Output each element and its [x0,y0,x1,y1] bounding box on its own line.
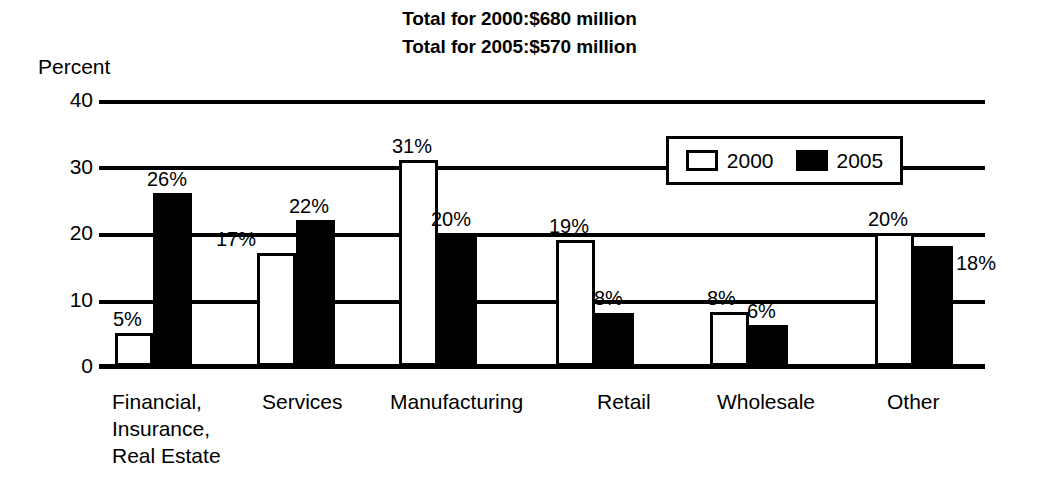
x-category-label-manufacturing: Manufacturing [390,388,523,415]
legend-item-2005[interactable]: 2005 [796,150,884,171]
y-tick-label-20: 20 [47,222,93,243]
bar-value-2000-retail: 19% [549,215,589,237]
legend-swatch-2000-icon [686,150,718,171]
bar-value-2000-services: 17% [216,228,256,250]
bar-value-2005-financial: 26% [147,168,187,190]
y-tick-label-30: 30 [47,156,93,177]
bar-2005-manufacturing[interactable] [438,233,477,366]
bar-2000-financial[interactable] [115,333,153,366]
bar-2000-retail[interactable] [556,240,595,366]
chart-legend[interactable]: 2000 2005 [666,136,903,185]
legend-swatch-2005-icon [796,150,828,171]
x-category-label-financial-line3: Real Estate [112,442,221,469]
legend-item-2000[interactable]: 2000 [686,150,774,171]
x-category-label-financial: Financial, Insurance, Real Estate [112,388,221,469]
bar-2000-manufacturing[interactable] [399,160,438,366]
bar-value-2000-financial: 5% [113,308,142,330]
gridline-40 [99,100,985,104]
y-tick-label-10: 10 [47,289,93,310]
bar-value-2005-retail: 8% [594,287,623,309]
chart-title-line-1: Total for 2000:$680 million [0,6,1039,32]
bar-2005-services[interactable] [296,220,335,366]
chart-title-block: Total for 2000:$680 million Total for 20… [0,6,1039,60]
legend-label-2005: 2005 [837,150,884,171]
x-category-label-services: Services [262,388,343,415]
bar-value-2005-manufacturing: 20% [431,208,471,230]
x-category-label-retail: Retail [597,388,651,415]
x-category-label-other: Other [887,388,940,415]
chart-screenshot: Total for 2000:$680 million Total for 20… [0,0,1039,488]
bar-value-2005-services: 22% [289,195,329,217]
bar-2000-other[interactable] [875,233,914,366]
bar-value-2000-wholesale: 8% [707,287,736,309]
chart-title-line-2: Total for 2005:$570 million [0,34,1039,60]
bar-value-2000-other: 20% [868,208,908,230]
y-tick-label-40: 40 [47,89,93,110]
y-axis-label: Percent [38,55,110,79]
bar-2005-other[interactable] [914,246,953,366]
bar-value-2005-other: 18% [956,252,996,274]
y-tick-label-0: 0 [47,355,93,376]
axis-baseline-0 [99,364,985,369]
bar-2000-services[interactable] [257,253,296,366]
x-category-label-financial-line1: Financial, [112,388,221,415]
x-category-label-wholesale: Wholesale [717,388,815,415]
bar-2005-retail[interactable] [595,313,634,366]
bar-2005-wholesale[interactable] [749,325,788,366]
bar-value-2005-wholesale: 6% [747,300,776,322]
x-category-label-financial-line2: Insurance, [112,415,221,442]
gridline-10 [99,300,985,304]
bar-2000-wholesale[interactable] [710,312,749,366]
bar-value-2000-manufacturing: 31% [392,135,432,157]
legend-label-2000: 2000 [727,150,774,171]
bar-2005-financial[interactable] [153,193,192,366]
